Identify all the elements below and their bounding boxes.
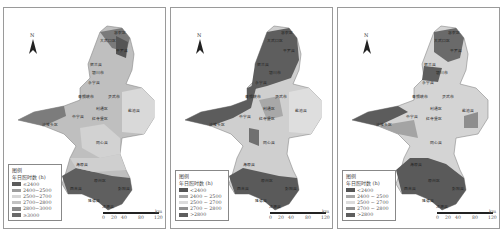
legend-swatch bbox=[179, 213, 188, 217]
legend-swatch bbox=[346, 195, 355, 199]
legend-item: >2800 bbox=[346, 212, 392, 218]
legend: 图例 年日照时数 (h) <2400 2400 ~ 2500 2500 ~ 27… bbox=[175, 170, 229, 221]
legend-swatch bbox=[179, 195, 188, 199]
legend-swatch bbox=[346, 201, 355, 205]
scale-bar: 0 20 40 80 120 km bbox=[270, 210, 328, 222]
legend-swatch bbox=[179, 188, 188, 192]
legend-swatch bbox=[12, 182, 21, 186]
legend-swatch bbox=[346, 213, 355, 217]
legend: 图例 年日照时数 (h) ≤2400 2400~2500 2500~2700 2… bbox=[8, 164, 62, 221]
map-panel-a: N 图例 年日照时数 (h) ≤2400 2400~2500 2500~2700… bbox=[3, 7, 166, 229]
legend-swatch bbox=[12, 201, 21, 205]
legend-swatch bbox=[12, 195, 21, 199]
legend-swatch bbox=[179, 207, 188, 211]
legend-swatch bbox=[346, 188, 355, 192]
legend-swatch bbox=[346, 207, 355, 211]
north-arrow: N bbox=[360, 34, 374, 56]
legend: 图例 年日照时数 (h) <2400 2400 ~ 2500 2500 ~ 27… bbox=[342, 170, 396, 221]
map-panel-c: N 图例 年日照时数 (h) <2400 2400 ~ 2500 2500 ~ … bbox=[337, 7, 500, 229]
legend-swatch bbox=[12, 207, 21, 211]
legend-swatch bbox=[179, 201, 188, 205]
legend-item: ≥3000 bbox=[12, 212, 58, 218]
scale-bar: 0 20 40 80 120 km bbox=[103, 210, 161, 222]
legend-swatch bbox=[12, 213, 21, 217]
map-panel-b: N 图例 年日照时数 (h) <2400 2400 ~ 2500 2500 ~ … bbox=[170, 7, 333, 229]
legend-swatch bbox=[12, 189, 21, 193]
north-arrow: N bbox=[193, 34, 207, 56]
legend-item: >2800 bbox=[179, 212, 225, 218]
scale-bar: 0 20 40 80 120 km bbox=[437, 210, 495, 222]
north-arrow: N bbox=[26, 34, 40, 56]
